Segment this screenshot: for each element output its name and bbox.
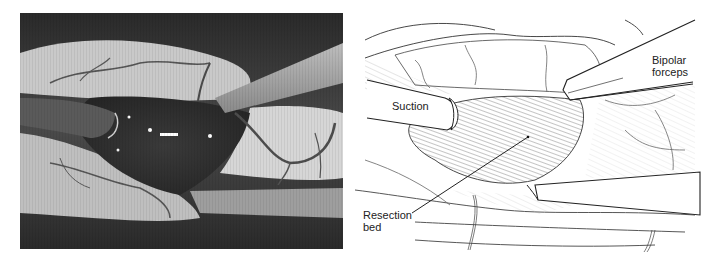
bipolar-forceps-label-line1: Bipolar (652, 54, 688, 66)
resection-bed-label-line2: bed (363, 221, 412, 233)
bipolar-forceps-label-line2: forceps (652, 66, 688, 78)
bipolar-forceps-label: Bipolar forceps (652, 54, 688, 78)
resection-bed-label-line1: Resection (363, 209, 412, 221)
resection-bed-label: Resection bed (363, 209, 412, 233)
suction-label: Suction (392, 100, 429, 112)
surgical-illustration: Suction Bipolar forceps Resection bed (355, 0, 715, 263)
surgical-figure: Suction Bipolar forceps Resection bed (0, 0, 715, 263)
intraoperative-photo (20, 13, 343, 249)
